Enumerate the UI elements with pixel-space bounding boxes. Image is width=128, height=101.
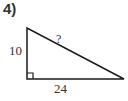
right-angle-marker <box>27 73 33 79</box>
vertical-leg-label: 10 <box>9 43 22 58</box>
horizontal-leg-label: 24 <box>54 81 68 96</box>
right-triangle-diagram: 10 ? 24 <box>0 0 128 101</box>
triangle-shape <box>27 28 124 79</box>
hypotenuse-label: ? <box>56 32 61 46</box>
